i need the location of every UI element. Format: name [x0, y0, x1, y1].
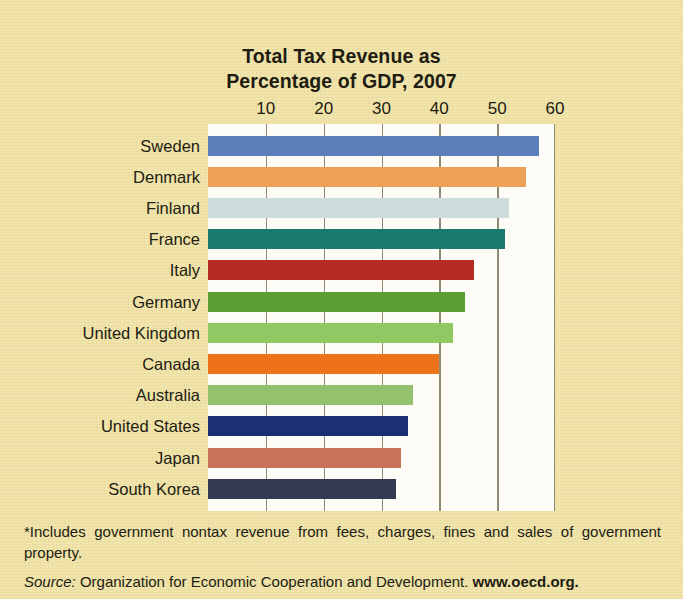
category-label-australia: Australia: [0, 385, 200, 405]
category-label-france: France: [0, 229, 200, 249]
x-tick-label-10: 10: [256, 99, 275, 119]
bar-france: [208, 229, 505, 249]
x-axis-tick-labels: 102030405060: [0, 99, 683, 123]
category-label-canada: Canada: [0, 354, 200, 374]
bar-germany: [208, 292, 465, 312]
bar-finland: [208, 198, 509, 218]
category-label-italy: Italy: [0, 260, 200, 280]
category-label-sweden: Sweden: [0, 136, 200, 156]
category-label-finland: Finland: [0, 198, 200, 218]
bar-sweden: [208, 136, 539, 156]
category-label-united-states: United States: [0, 416, 200, 436]
bars: [208, 124, 554, 511]
chart-title-line-1: Total Tax Revenue as: [242, 45, 441, 67]
bar-japan: [208, 448, 401, 468]
x-tick-label-40: 40: [430, 99, 449, 119]
bar-south-korea: [208, 479, 396, 499]
category-label-germany: Germany: [0, 292, 200, 312]
category-label-south-korea: South Korea: [0, 479, 200, 499]
bar-australia: [208, 385, 413, 405]
chart-figure: Total Tax Revenue as Percentage of GDP, …: [0, 0, 683, 599]
bar-canada: [208, 354, 439, 374]
source-text: Organization for Economic Cooperation an…: [80, 573, 469, 590]
x-tick-label-30: 30: [372, 99, 391, 119]
category-label-denmark: Denmark: [0, 167, 200, 187]
x-tick-label-60: 60: [546, 99, 565, 119]
plot-area: [208, 124, 555, 511]
chart-title-line-2: Percentage of GDP, 2007: [0, 69, 683, 94]
category-label-united-kingdom: United Kingdom: [0, 323, 200, 343]
bar-united-states: [208, 416, 408, 436]
x-tick-label-20: 20: [314, 99, 333, 119]
y-axis-category-labels: SwedenDenmarkFinlandFranceItalyGermanyUn…: [0, 124, 200, 511]
bar-italy: [208, 260, 474, 280]
footnote: *Includes government nontax revenue from…: [24, 521, 661, 563]
bar-united-kingdom: [208, 323, 453, 343]
category-label-japan: Japan: [0, 448, 200, 468]
bar-denmark: [208, 167, 526, 187]
source-url[interactable]: www.oecd.org.: [473, 573, 579, 590]
chart-title: Total Tax Revenue as Percentage of GDP, …: [0, 44, 683, 94]
source-line: Source: Organization for Economic Cooper…: [24, 572, 669, 591]
source-label: Source:: [24, 573, 76, 590]
x-tick-label-50: 50: [488, 99, 507, 119]
